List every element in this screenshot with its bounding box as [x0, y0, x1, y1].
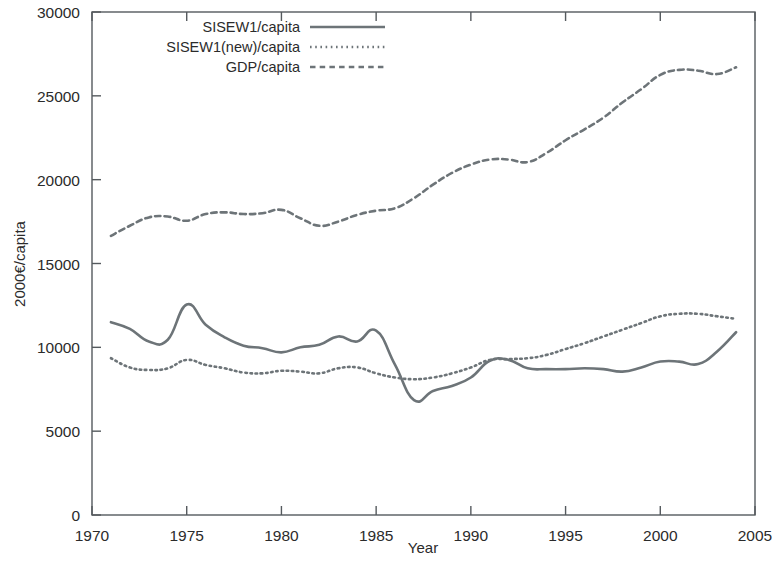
series-line-2: [111, 67, 736, 236]
x-axis-title: Year: [408, 539, 438, 556]
y-tick-label: 20000: [37, 172, 80, 189]
y-tick-label: 0: [71, 507, 80, 524]
x-tick-label: 1975: [169, 527, 203, 544]
y-tick-label: 5000: [46, 423, 81, 440]
x-tick-label: 1980: [264, 527, 299, 544]
y-tick-label: 25000: [37, 88, 80, 105]
x-tick-label: 2000: [643, 527, 678, 544]
x-tick-label: 2005: [738, 527, 772, 544]
legend-label-2: GDP/capita: [226, 59, 301, 75]
data-series-group: [111, 67, 736, 401]
y-tick-label: 30000: [37, 4, 80, 21]
x-tick-label: 1990: [454, 527, 489, 544]
x-axis-ticks: 19701975198019851990199520002005: [75, 12, 772, 544]
plot-frame: [92, 12, 755, 515]
y-tick-label: 10000: [37, 339, 80, 356]
series-line-0: [111, 304, 736, 402]
x-tick-label: 1995: [548, 527, 582, 544]
y-tick-label: 15000: [37, 256, 80, 273]
x-tick-label: 1985: [359, 527, 393, 544]
y-axis-title: 2000€/capita: [11, 220, 28, 307]
x-tick-label: 1970: [75, 527, 110, 544]
legend-label-0: SISEW1/capita: [202, 19, 300, 35]
legend: SISEW1/capitaSISEW1(new)/capitaGDP/capit…: [166, 19, 385, 75]
legend-label-1: SISEW1(new)/capita: [166, 39, 301, 55]
line-chart-figure: 050001000015000200002500030000 197019751…: [0, 0, 778, 564]
plot-border: [92, 12, 755, 515]
